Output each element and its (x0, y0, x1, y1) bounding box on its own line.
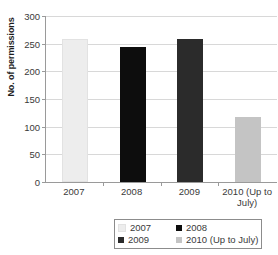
legend-swatch-icon (118, 237, 124, 243)
bar (62, 39, 88, 182)
y-axis-tick-label: 300 (24, 11, 40, 22)
legend-item-label: 2009 (128, 234, 149, 245)
x-axis-tick-label-line: 2010 (Up to (218, 186, 276, 197)
y-axis-tick-label: 100 (24, 121, 40, 132)
x-axis-tick-label: 2010 (Up toJuly) (218, 186, 276, 208)
y-axis-tick-mark (42, 154, 46, 155)
legend-item: 2009 (118, 234, 174, 245)
y-axis-tick-mark (42, 71, 46, 72)
y-axis-tick-label: 250 (24, 38, 40, 49)
y-axis-tick-mark (42, 182, 46, 183)
x-axis-tick-label-line: 2008 (103, 186, 161, 197)
x-axis-tick-label-line: July) (218, 197, 276, 208)
x-axis-tick-label-line: 2007 (45, 186, 103, 197)
y-axis-tick-mark (42, 127, 46, 128)
legend-item-label: 2008 (186, 222, 207, 233)
y-axis-tick-mark (42, 16, 46, 17)
legend-swatch-icon (176, 237, 182, 243)
legend-item: 2010 (Up to July) (176, 234, 258, 245)
plot-area: 300250200150100500 (45, 16, 277, 183)
x-axis-tick-label: 2009 (161, 186, 219, 197)
y-axis-tick-label: 0 (35, 177, 40, 188)
bar (235, 117, 261, 182)
y-axis-title: No. of permissions (6, 0, 16, 115)
x-axis-tick-mark (161, 182, 162, 186)
bar (120, 47, 146, 182)
x-axis-tick-label-line: 2009 (161, 186, 219, 197)
x-axis-tick-label: 2008 (103, 186, 161, 197)
y-axis-tick-label: 200 (24, 66, 40, 77)
y-axis-tick-label: 150 (24, 94, 40, 105)
gridline (46, 16, 277, 17)
legend-swatch-icon (176, 225, 182, 231)
legend: 2007200820092010 (Up to July) (114, 219, 262, 249)
legend-item: 2008 (176, 222, 258, 233)
bar-chart: No. of permissions 300250200150100500 20… (0, 0, 278, 255)
legend-item-label: 2010 (Up to July) (186, 234, 258, 245)
x-axis-tick-label: 2007 (45, 186, 103, 197)
y-axis-tick-mark (42, 44, 46, 45)
y-axis-tick-label: 50 (29, 149, 40, 160)
legend-swatch-icon (118, 224, 126, 232)
bar (177, 39, 203, 182)
x-axis-tick-mark (103, 182, 104, 186)
x-axis-tick-mark (218, 182, 219, 186)
legend-item: 2007 (118, 222, 174, 233)
legend-item-label: 2007 (130, 222, 151, 233)
y-axis-tick-mark (42, 99, 46, 100)
